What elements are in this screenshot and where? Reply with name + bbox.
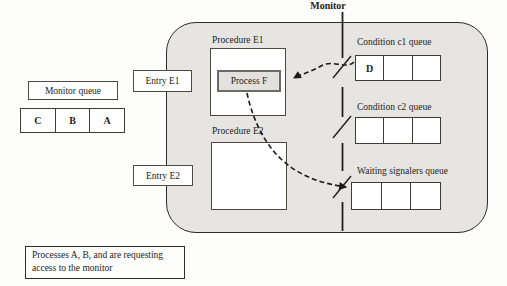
queue-cell-empty: [413, 56, 440, 80]
queue-cell-empty: [384, 118, 412, 143]
queue-cell-b: B: [56, 109, 91, 132]
procedure-e1-label: Procedure E1: [212, 35, 263, 46]
queue-cell-d: D: [356, 56, 384, 80]
condition-c1-queue: D: [355, 55, 441, 81]
monitor-queue-label: Monitor queue: [45, 86, 101, 96]
queue-cell-empty: [382, 183, 412, 209]
procedure-e2-label: Procedure E2: [212, 126, 263, 137]
caption-line-1: Processes A, B, and are requesting: [32, 249, 178, 262]
queue-cell-a: A: [90, 109, 124, 132]
monitor-queue-label-box: Monitor queue: [28, 81, 118, 100]
queue-cell-empty: [384, 56, 412, 80]
process-f-box: Process F: [217, 70, 281, 92]
queue-cell-empty: [356, 118, 384, 143]
entry-e2-box: Entry E2: [133, 165, 193, 186]
entry-e1-label: Entry E1: [145, 76, 179, 86]
queue-cell-empty: [413, 118, 440, 143]
caption-line-2: access to the monitor: [32, 262, 178, 275]
queue-cell-empty: [352, 183, 382, 209]
entry-e2-label: Entry E2: [146, 171, 180, 181]
procedure-e2-box: [211, 142, 287, 210]
condition-c2-queue: [355, 117, 441, 144]
waiting-signalers-queue-label: Waiting signalers queue: [357, 166, 448, 177]
monitor-title: Monitor: [300, 0, 356, 11]
condition-c1-queue-label: Condition c1 queue: [357, 37, 431, 48]
entry-e1-box: Entry E1: [133, 70, 192, 92]
condition-c2-queue-label: Condition c2 queue: [357, 102, 431, 113]
queue-cell-empty: [411, 183, 440, 209]
caption-box: Processes A, B, and are requesting acces…: [25, 246, 185, 279]
monitor-diagram: Monitor Monitor queue C B A Entry E1 Ent…: [0, 0, 507, 286]
waiting-signalers-queue: [351, 182, 441, 210]
monitor-queue: C B A: [20, 108, 125, 133]
process-f-label: Process F: [231, 76, 268, 86]
queue-cell-c: C: [21, 109, 56, 132]
